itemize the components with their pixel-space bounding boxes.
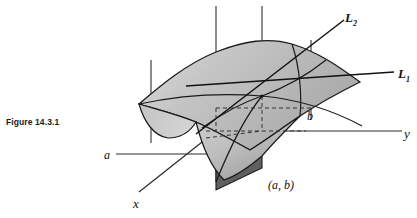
- label-point-a: a: [104, 148, 110, 163]
- label-tangent-line-L1: L1: [398, 66, 410, 84]
- label-axis-y: y: [404, 126, 410, 142]
- label-tangent-line-L2: L2: [345, 10, 357, 28]
- label-point-ab: (a, b): [268, 178, 294, 193]
- tangency-point-marker: [260, 94, 263, 97]
- label-point-b: b: [307, 109, 313, 124]
- label-axis-x: x: [133, 196, 139, 212]
- tangent-plane-diagram: [0, 0, 417, 218]
